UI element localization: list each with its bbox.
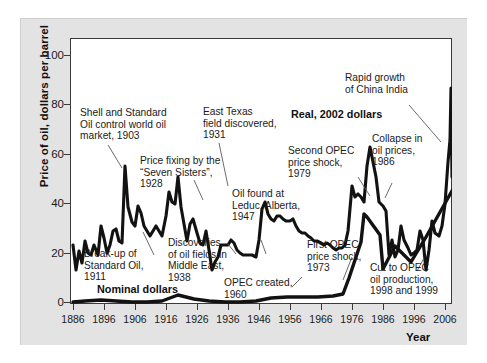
figure-oil-price-chart: Price of oil, dollars per barrel 100 80 … bbox=[0, 0, 487, 363]
annotation-first-opec: First OPEC price shock, 1973 bbox=[307, 239, 377, 274]
annotation-price-fixing: Price fixing by the “Seven Sisters”, 192… bbox=[140, 155, 245, 190]
annotation-leduc: Oil found at Leduc, Alberta, 1947 bbox=[232, 188, 312, 223]
annotation-china-india: Rapid growth of China India bbox=[345, 72, 423, 95]
annotation-second-opec: Second OPEC price shock, 1979 bbox=[288, 145, 366, 180]
series-label-real: Real, 2002 dollars bbox=[291, 108, 382, 120]
leader-leduc bbox=[261, 240, 266, 254]
annotation-collapse: Collapse in oil prices, 1986 bbox=[372, 133, 434, 168]
leader-shell-standard bbox=[108, 145, 122, 168]
series-label-nominal: Nominal dollars bbox=[97, 283, 178, 295]
annotation-opec-created: OPEC created, 1960 bbox=[224, 277, 304, 300]
annotation-cut-opec: Cut to OPEC oil production, 1998 and 199… bbox=[370, 262, 462, 297]
annotation-break-up: Break-up of Standard Oil, 1911 bbox=[84, 248, 169, 283]
annotation-shell-standard: Shell and Standard Oil control world oil… bbox=[80, 107, 200, 142]
leader-collapse bbox=[385, 183, 392, 198]
leader-second-opec bbox=[358, 177, 370, 196]
annotation-east-texas: East Texas field discovered, 1931 bbox=[203, 106, 298, 141]
